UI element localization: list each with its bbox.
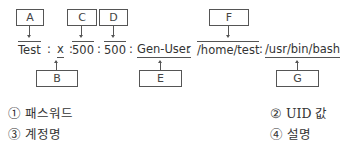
field-uid: 500 — [72, 41, 94, 58]
option-4[interactable]: ④ 설명 — [270, 124, 311, 143]
field-separator: : — [97, 41, 101, 57]
pointer-line-g — [297, 61, 298, 70]
label-box-c: C — [67, 9, 97, 26]
label-box-e: E — [139, 70, 182, 87]
label-box-d: D — [99, 9, 128, 26]
field-home-directory: /home/test — [197, 41, 259, 58]
option-3[interactable]: ③ 계정명 — [8, 124, 61, 143]
field-separator: : — [47, 41, 51, 57]
option-number: ① — [8, 106, 21, 121]
option-text: 계정명 — [25, 127, 61, 142]
field-password: x — [57, 41, 64, 58]
label-box-f: F — [209, 9, 249, 26]
pointer-line-e — [160, 61, 161, 70]
arrow-down-icon — [111, 35, 115, 38]
field-separator: : — [129, 41, 133, 57]
option-1[interactable]: ① 패스워드 — [8, 103, 73, 122]
arrow-down-icon — [79, 35, 83, 38]
label-box-b: B — [36, 70, 78, 87]
option-text: 패스워드 — [25, 106, 73, 121]
option-number: ③ — [8, 127, 21, 142]
option-number: ② — [270, 106, 282, 121]
field-gid: 500 — [104, 41, 126, 58]
field-account-name: Test — [18, 41, 41, 58]
option-text: 설명 — [287, 127, 311, 142]
field-separator: : — [187, 41, 191, 57]
pointer-line-b — [56, 61, 57, 70]
field-login-shell: /usr/bin/bash — [265, 41, 340, 58]
label-box-g: G — [276, 70, 319, 87]
label-box-a: A — [16, 9, 44, 26]
option-number: ④ — [270, 127, 283, 142]
field-description: Gen-User — [137, 41, 191, 58]
arrow-down-icon — [226, 35, 230, 38]
option-text: UID 값 — [286, 106, 327, 121]
option-2[interactable]: ② UID 값 — [270, 103, 327, 122]
field-separator: : — [259, 41, 263, 57]
arrow-down-icon — [27, 35, 31, 38]
